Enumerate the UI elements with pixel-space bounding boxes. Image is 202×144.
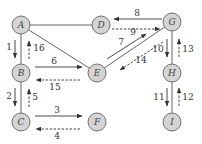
step-label-3: 3 [54, 105, 60, 115]
node-G: G [163, 13, 181, 31]
step-label-7: 7 [118, 37, 124, 47]
node-F: F [88, 113, 106, 131]
svg-text:H: H [167, 68, 176, 78]
node-E: E [88, 64, 106, 82]
svg-text:E: E [93, 68, 101, 78]
step-label-5: 5 [32, 92, 38, 102]
node-H: H [163, 64, 181, 82]
svg-text:B: B [17, 68, 25, 78]
step-label-1: 1 [6, 42, 12, 52]
svg-text:C: C [18, 117, 25, 127]
svg-text:F: F [93, 117, 101, 127]
node-A: A [12, 16, 30, 34]
node-C: C [12, 113, 30, 131]
step-label-6: 6 [51, 56, 57, 66]
step-label-14: 14 [135, 55, 147, 65]
step-label-8: 8 [134, 8, 140, 18]
graph-nodes: A D G B E H C F I [12, 13, 181, 131]
svg-text:I: I [169, 117, 174, 127]
node-I: I [163, 113, 181, 131]
step-label-4: 4 [54, 131, 60, 141]
graph-traversal-diagram: 1 16 2 5 6 15 3 4 8 9 7 14 [0, 0, 202, 144]
step-label-2: 2 [6, 91, 12, 101]
step-label-15: 15 [49, 82, 61, 92]
step-label-12: 12 [182, 92, 193, 102]
step-label-9: 9 [130, 27, 136, 37]
node-B: B [12, 64, 30, 82]
step-label-16: 16 [33, 43, 45, 53]
svg-text:D: D [96, 20, 104, 30]
step-label-13: 13 [182, 44, 194, 54]
svg-text:G: G [168, 17, 175, 27]
step-label-11: 11 [153, 92, 164, 102]
svg-text:A: A [17, 20, 25, 30]
node-D: D [92, 16, 110, 34]
step-label-10: 10 [152, 44, 164, 54]
